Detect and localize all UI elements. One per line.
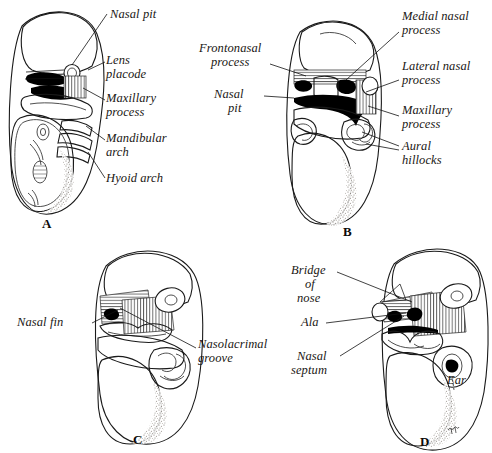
label-lateral-nasal-process-line1: Lateral nasal — [402, 60, 470, 74]
label-medial-nasal-process-line1: Medial nasal — [402, 10, 469, 24]
label-lens-placode-a-line1: Lens — [106, 54, 130, 68]
label-nasolacrimal-groove-line1: Nasolacrimal — [198, 338, 267, 352]
label-aural-hillocks-line2: hillocks — [402, 154, 442, 168]
label-maxillary-process-b-line1: Maxillary — [402, 104, 452, 118]
label-aural-hillocks-line1: Aural — [402, 140, 431, 154]
label-ala: Ala — [301, 316, 319, 330]
panel-d-drawing — [372, 249, 488, 450]
label-frontonasal-process-line1: Frontonasal — [199, 42, 261, 56]
label-bridge-of-nose-line2: of — [305, 278, 315, 292]
label-lateral-nasal-process-line2: process — [402, 74, 440, 88]
label-bridge-of-nose-line3: nose — [297, 292, 320, 306]
panel-letter-a: A — [42, 216, 51, 232]
panel-letter-c: C — [133, 432, 142, 448]
label-maxillary-process-b-line2: process — [402, 118, 440, 132]
label-mandibular-arch-a-line2: arch — [106, 146, 129, 160]
panel-letter-d: D — [420, 434, 429, 450]
label-maxillary-process-a-line1: Maxillary — [106, 92, 156, 106]
label-nasal-septum-line2: septum — [291, 364, 327, 378]
label-nasolacrimal-groove-line2: groove — [198, 352, 233, 366]
panel-b-leaders — [264, 32, 399, 150]
label-bridge-of-nose-line1: Bridge — [291, 264, 326, 278]
panel-a-drawing — [9, 12, 104, 214]
label-nasal-pit-b-line1: Nasal — [214, 88, 244, 102]
panel-letter-b: B — [343, 224, 352, 240]
label-ear: Ear — [447, 374, 466, 388]
label-nasal-pit-a: Nasal pit — [110, 8, 156, 22]
label-maxillary-process-a-line2: process — [106, 106, 144, 120]
embryo-face-development-figure: Nasal pit Lens placode Maxillary process… — [0, 0, 492, 453]
label-medial-nasal-process-line2: process — [402, 24, 440, 38]
panel-c-drawing — [95, 251, 202, 444]
panel-b-drawing — [287, 21, 381, 226]
label-frontonasal-process-line2: process — [211, 56, 249, 70]
label-hyoid-arch-a: Hyoid arch — [106, 172, 163, 186]
label-nasal-pit-b-line2: pit — [228, 102, 242, 116]
label-mandibular-arch-a-line1: Mandibular — [106, 132, 167, 146]
label-nasal-fin: Nasal fin — [17, 316, 63, 330]
label-lens-placode-a-line2: placode — [106, 68, 146, 82]
label-nasal-septum-line1: Nasal — [297, 350, 327, 364]
